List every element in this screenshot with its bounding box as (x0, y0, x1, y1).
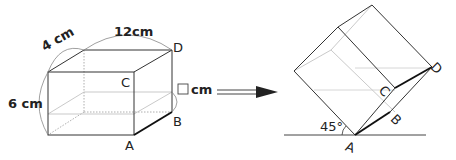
diagram-canvas: 4 cm 12cm 6 cm D C B A cm 45° D C B A (0, 0, 456, 160)
right-arrow-icon (217, 86, 278, 98)
vertex-a-right: A (344, 139, 358, 156)
vertex-d-left: D (173, 40, 183, 55)
vertex-d-right: D (428, 59, 446, 77)
vertex-c-right: C (376, 83, 393, 100)
vertex-c-left: C (121, 75, 130, 90)
unknown-answer-box (178, 84, 188, 94)
water-surface (48, 92, 172, 114)
vertex-b-left: B (173, 114, 182, 129)
vertex-a-left: A (125, 138, 134, 153)
right-box-tilted (284, 5, 432, 135)
unknown-unit-label: cm (191, 82, 212, 97)
width-label: 4 cm (39, 24, 77, 54)
vertex-b-right: B (388, 111, 405, 128)
height-label: 6 cm (8, 96, 43, 111)
angle-label: 45° (320, 119, 343, 134)
length-label: 12cm (114, 24, 153, 39)
left-box (39, 35, 177, 135)
